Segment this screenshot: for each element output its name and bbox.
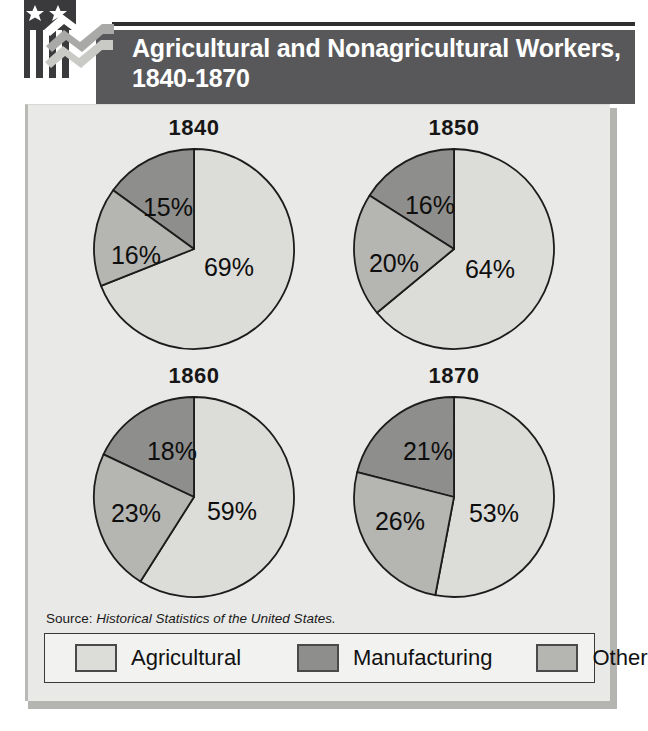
pie-slices [354,397,554,597]
header-top-rule [112,22,635,26]
pie-slices [94,397,294,597]
flag-chevron-logo [6,0,114,78]
pie-chart-1870: 1870 53% 21% 26% [328,363,580,601]
legend-label: Agricultural [131,645,241,671]
pie-chart-1860: 1860 59% 18% 23% [68,363,320,601]
pie-slice-value: 64% [465,255,515,283]
pie-year-label: 1840 [68,115,320,141]
pie-chart-1850: 1850 64% 16% 20% [328,115,580,353]
pie-slice-value: 21% [403,437,453,465]
legend-label: Manufacturing [353,645,492,671]
pie-slice-value: 16% [405,191,455,219]
panel-shadow-right [610,108,617,705]
pie-year-label: 1860 [68,363,320,389]
pie-slice-value: 16% [111,241,161,269]
pie-slice-value: 53% [469,499,519,527]
chart-legend: Agricultural Manufacturing Other [44,633,595,683]
legend-swatch-manufacturing [297,644,339,672]
pie-slice-value: 59% [207,497,257,525]
pie-svg-1860: 59% 18% 23% [84,393,304,601]
pie-year-label: 1870 [328,363,580,389]
pie-svg-1840: 69% 15% 16% [84,145,304,353]
pie-slice-value: 15% [143,193,193,221]
source-prefix: Source: [46,611,93,626]
header-bar: Agricultural and Nonagricultural Workers… [96,30,635,104]
source-note: Source: Historical Statistics of the Uni… [46,611,336,626]
legend-swatch-other [536,644,578,672]
pie-slice-value: 18% [147,437,197,465]
page-title: Agricultural and Nonagricultural Workers… [132,34,624,93]
legend-item-other[interactable]: Other [536,644,647,672]
chart-panel: 1840 69% 15% 16% 1850 64% 16% 20% 1860 5… [25,104,610,701]
pie-slice-value: 20% [369,249,419,277]
pie-slice-value: 23% [111,499,161,527]
legend-swatch-agricultural [75,644,117,672]
legend-item-agricultural[interactable]: Agricultural [75,644,241,672]
panel-shadow-bottom [28,701,617,709]
legend-label: Other [592,645,647,671]
pie-year-label: 1850 [328,115,580,141]
pie-slice-value: 26% [375,507,425,535]
legend-item-manufacturing[interactable]: Manufacturing [297,644,492,672]
pie-slice-value: 69% [204,253,254,281]
pie-chart-1840: 1840 69% 15% 16% [68,115,320,353]
pie-svg-1850: 64% 16% 20% [344,145,564,353]
pie-svg-1870: 53% 21% 26% [344,393,564,601]
source-citation: Historical Statistics of the United Stat… [96,611,335,626]
